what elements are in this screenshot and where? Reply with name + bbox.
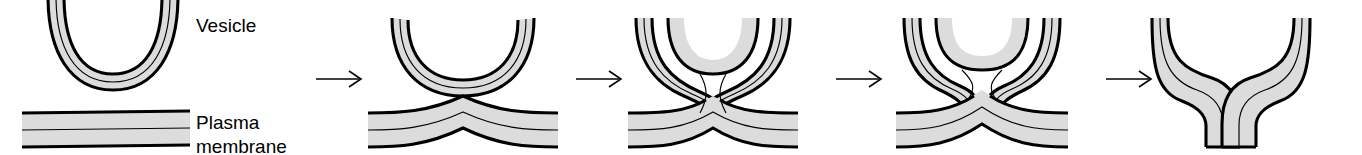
stage-3-vesicle-cap-fill: [668, 18, 758, 74]
stage-5-right-fill: [1222, 18, 1310, 147]
stage-1-vesicle-fill: [48, 0, 178, 90]
stage-4-group: [896, 18, 1068, 147]
stage-5-group: [1152, 18, 1310, 147]
stage-2-plasma-membrane-fill: [368, 96, 558, 147]
stage-3-group: [628, 18, 798, 147]
plasma-membrane-label-line1: Plasma: [196, 112, 260, 133]
stage-2-group: [368, 18, 558, 147]
stage-3-plasma-fill: [628, 96, 798, 147]
arrow-2-group: [576, 71, 621, 87]
arrow-3-group: [836, 71, 881, 87]
stage-1-group: [22, 0, 190, 147]
arrow-4-group: [1106, 71, 1151, 87]
stage-4-vesicle-cap-fill: [936, 18, 1028, 70]
membrane-fusion-figure: Vesicle Plasma membrane: [0, 0, 1362, 155]
vesicle-label: Vesicle: [196, 15, 256, 36]
stage-4-plasma-fill: [896, 90, 1068, 147]
stage-1-plasma-outer-leaflet: [22, 111, 190, 113]
stage-2-vesicle-fill: [392, 18, 534, 96]
arrow-1-group: [316, 71, 361, 87]
fusion-diagram-svg: Vesicle Plasma membrane: [0, 0, 1362, 155]
plasma-membrane-label-line2: membrane: [196, 136, 287, 155]
stage-1-plasma-inner-leaflet: [22, 145, 190, 147]
